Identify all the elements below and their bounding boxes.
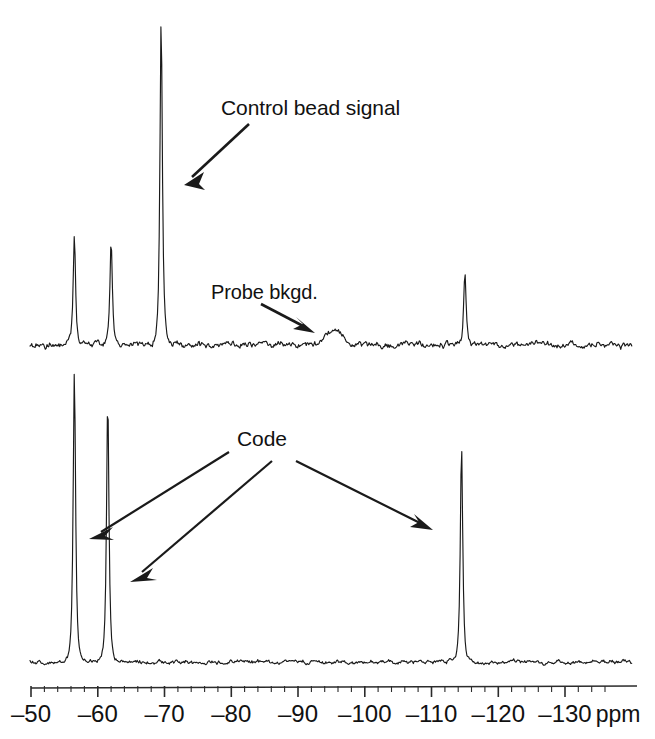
annotation-control-bead-signal: Control bead signal bbox=[221, 96, 400, 120]
annotation-probe-bkgd: Probe bkgd. bbox=[211, 281, 318, 304]
axis-tick-label-minus130: –130 bbox=[538, 700, 591, 728]
axis-tick-label-minus120: –120 bbox=[472, 700, 525, 728]
annotation-code: Code bbox=[237, 427, 287, 451]
axis-tick-label-minus60: –60 bbox=[78, 700, 118, 728]
axis-tick-label-minus80: –80 bbox=[211, 700, 251, 728]
axis-tick-label-minus90: –90 bbox=[278, 700, 318, 728]
axis-tick-label-minus50: –50 bbox=[11, 700, 51, 728]
nmr-spectrum-figure: Control bead signal Probe bkgd. Code –50… bbox=[0, 0, 655, 739]
axis-tick-label-minus100: –100 bbox=[338, 700, 391, 728]
axis-tick-label-minus110: –110 bbox=[406, 700, 458, 728]
axis-tick-label-minus70: –70 bbox=[144, 700, 184, 728]
axis-unit-label: ppm bbox=[596, 701, 641, 728]
